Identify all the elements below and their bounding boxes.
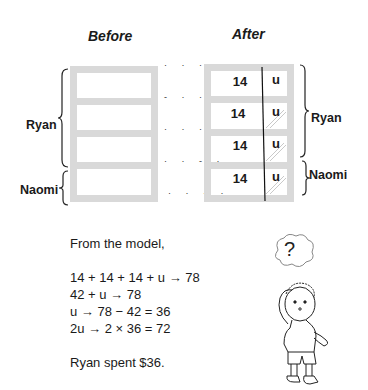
thought-question-mark: ? [284, 238, 295, 261]
naomi-before-label: Naomi [20, 183, 58, 197]
before-bar-model [70, 66, 158, 202]
ryan-before-label: Ryan [26, 118, 57, 132]
after-row-4-value: 14 [220, 171, 260, 186]
thinking-boy-icon [262, 232, 338, 388]
after-row-2-unit: u [266, 104, 286, 119]
before-heading: Before [88, 28, 132, 44]
solution-step-4: 2u → 2 × 36 = 72 [70, 321, 170, 336]
after-row-3-value: 14 [220, 138, 260, 153]
solution-intro: From the model, [70, 236, 165, 251]
ryan-after-brace-icon [298, 64, 310, 158]
solution-step-1: 14 + 14 + 14 + u → 78 [70, 270, 200, 285]
after-heading: After [232, 26, 265, 42]
after-row-4-unit: u [266, 169, 286, 184]
after-row-1-value: 14 [220, 74, 260, 89]
solution-answer: Ryan spent $36. [70, 355, 165, 370]
solution-step-2: 42 + u → 78 [70, 287, 141, 302]
ryan-before-brace-icon [58, 68, 70, 168]
naomi-after-label: Naomi [309, 168, 347, 182]
ryan-after-label: Ryan [311, 111, 342, 125]
after-row-2-value: 14 [218, 106, 258, 121]
after-row-1-unit: u [266, 72, 286, 87]
after-row-3-unit: u [266, 136, 286, 151]
naomi-before-brace-icon [58, 170, 70, 206]
solution-step-3: u → 78 − 42 = 36 [70, 304, 170, 319]
